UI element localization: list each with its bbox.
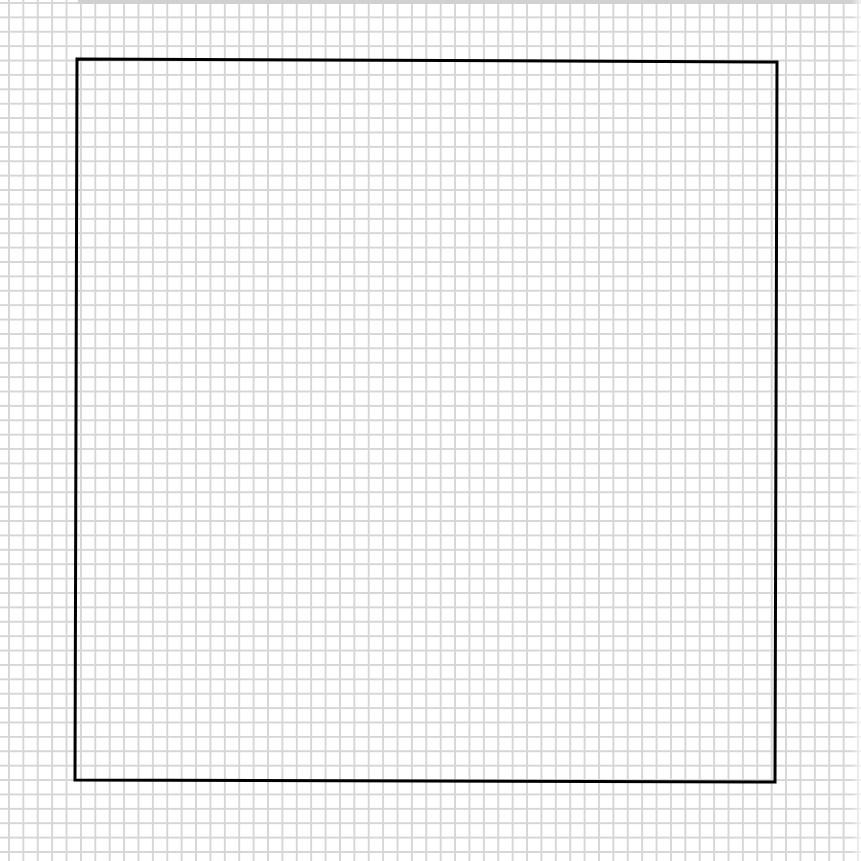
hand-drawn-square	[0, 0, 861, 861]
square-outline	[75, 59, 777, 782]
